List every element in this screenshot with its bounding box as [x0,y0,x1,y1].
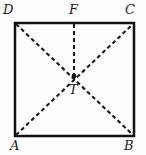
figure-canvas [0,0,146,155]
geometry-figure: D F C A B T [0,0,146,155]
point-t-marker [72,74,77,79]
vertex-label-b: B [124,139,134,152]
vertex-label-d: D [3,3,13,16]
vertex-label-c: C [125,3,135,16]
point-label-t: T [69,83,78,96]
vertex-label-a: A [10,139,19,152]
vertex-label-f: F [69,3,78,16]
